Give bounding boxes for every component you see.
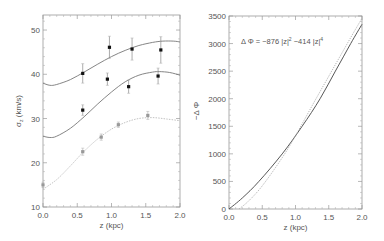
y-tick-label: 2000 bbox=[208, 95, 226, 104]
x-tick-label: 2.0 bbox=[174, 211, 186, 220]
data-point-middle bbox=[106, 78, 109, 81]
data-point-lower bbox=[81, 150, 84, 153]
model-curve-lower bbox=[43, 118, 180, 190]
y-tick-label: 500 bbox=[213, 177, 227, 186]
x-tick-label: 0.5 bbox=[257, 213, 269, 222]
y-tick-label: 1500 bbox=[208, 122, 226, 131]
plot-frame bbox=[43, 15, 180, 207]
y-axis-label: −Δ Φ bbox=[192, 102, 201, 120]
y-tick-label: 3500 bbox=[208, 12, 226, 21]
y-tick-label: 3000 bbox=[208, 40, 226, 49]
right-panel-delta-phi: 0.00.51.01.52.00500100015002000250030003… bbox=[192, 12, 368, 232]
data-point-lower bbox=[146, 114, 149, 117]
curve-dotted bbox=[239, 18, 362, 209]
x-axis-label: z (kpc) bbox=[100, 221, 124, 230]
curve-solid bbox=[229, 24, 362, 209]
y-tick-label: 50 bbox=[31, 26, 40, 35]
x-tick-label: 0.0 bbox=[223, 213, 235, 222]
y-axis-label: σz (km/s) bbox=[14, 95, 24, 127]
data-point-lower bbox=[100, 136, 103, 139]
data-point-upper bbox=[108, 46, 111, 49]
x-tick-label: 0.0 bbox=[37, 211, 49, 220]
y-tick-label: 0 bbox=[222, 205, 227, 214]
x-tick-label: 1.5 bbox=[140, 211, 152, 220]
y-tick-label: 20 bbox=[31, 159, 40, 168]
formula-annotation: Δ Φ = −876 |z|2 −414 |z|4 bbox=[241, 36, 323, 46]
data-point-middle bbox=[156, 74, 159, 77]
data-point-upper bbox=[130, 47, 133, 50]
x-tick-label: 2.0 bbox=[356, 213, 368, 222]
data-point-upper bbox=[159, 48, 162, 51]
data-point-middle bbox=[127, 85, 130, 88]
data-point-middle bbox=[81, 109, 84, 112]
y-tick-label: 2500 bbox=[208, 67, 226, 76]
y-tick-label: 40 bbox=[31, 70, 40, 79]
data-point-lower bbox=[41, 183, 44, 186]
y-tick-label: 30 bbox=[31, 115, 40, 124]
data-point-lower bbox=[117, 123, 120, 126]
x-tick-label: 1.5 bbox=[323, 213, 335, 222]
data-point-upper bbox=[81, 72, 84, 75]
y-tick-label: 1000 bbox=[208, 150, 226, 159]
left-panel-sigma-z: 0.00.51.01.52.01020304050z (kpc)σz (km/s… bbox=[14, 15, 186, 230]
y-tick-label: 10 bbox=[31, 203, 40, 212]
x-tick-label: 1.0 bbox=[106, 211, 118, 220]
model-curve-middle bbox=[43, 72, 180, 138]
x-tick-label: 1.0 bbox=[290, 213, 302, 222]
x-tick-label: 0.5 bbox=[72, 211, 84, 220]
figure: 0.00.51.01.52.01020304050z (kpc)σz (km/s… bbox=[0, 0, 384, 241]
x-axis-label: z (kpc) bbox=[284, 223, 308, 232]
figure-canvas: 0.00.51.01.52.01020304050z (kpc)σz (km/s… bbox=[0, 0, 384, 241]
